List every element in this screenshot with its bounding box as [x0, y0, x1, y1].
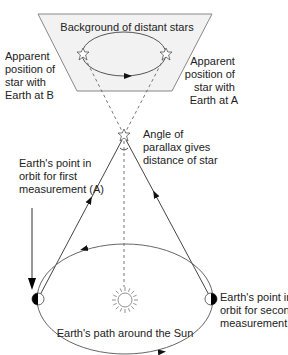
earth-icon-A — [32, 293, 44, 305]
near-star-icon — [118, 129, 130, 141]
label-A-pointer-head — [28, 278, 36, 290]
label-earth-B: Earth's point in orbit for second measur… — [220, 291, 288, 329]
panel-label: Background of distant stars — [60, 21, 194, 33]
label-earth-A: Earth's point in orbit for first measure… — [19, 157, 104, 195]
earth-icon-B — [205, 293, 217, 305]
orbit-arrow-bottom — [152, 352, 162, 353]
label-apparent-B: Apparent position of star with Earth at … — [5, 50, 58, 101]
sun-icon — [112, 287, 138, 313]
parallax-diagram: Background of distant stars — [0, 0, 288, 355]
label-orbit: Earth's path around the Sun — [57, 327, 194, 339]
label-parallax-angle: Angle of parallax gives distance of star — [143, 128, 218, 166]
label-apparent-A: Apparent position of star with Earth at … — [185, 55, 239, 106]
